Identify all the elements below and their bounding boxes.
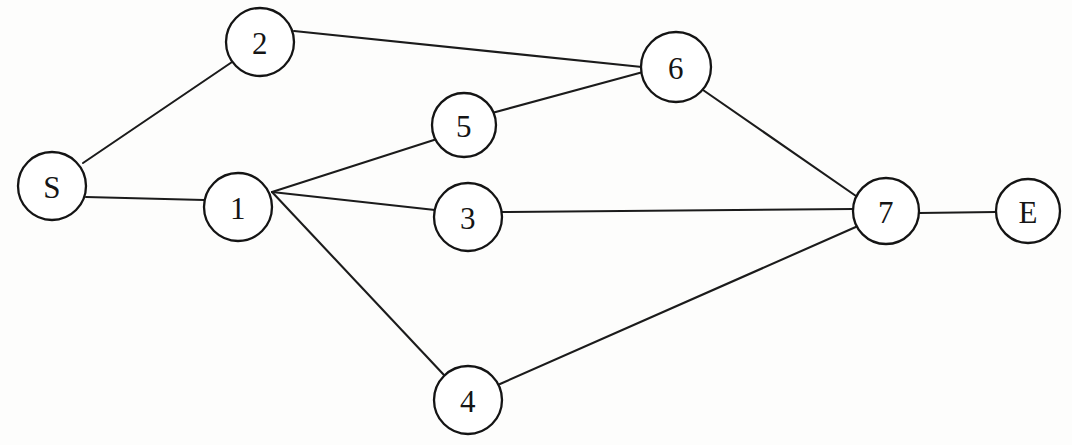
graph-node-e[interactable]: E xyxy=(996,179,1060,243)
graph-diagram-canvas: S2153467E xyxy=(0,0,1072,445)
graph-node-2[interactable]: 2 xyxy=(226,8,294,76)
node-label-e: E xyxy=(1018,195,1037,230)
edge-1-3 xyxy=(272,192,435,210)
graph-node-3[interactable]: 3 xyxy=(434,183,502,251)
graph-node-7[interactable]: 7 xyxy=(853,178,919,244)
node-layer: S2153467E xyxy=(18,8,1060,434)
node-label-s: S xyxy=(43,170,61,205)
graph-node-5[interactable]: 5 xyxy=(432,93,496,157)
edge-3-7 xyxy=(502,209,853,212)
node-label-6: 6 xyxy=(668,51,684,86)
edge-1-5 xyxy=(272,139,437,192)
edge-s-1 xyxy=(86,197,204,200)
edge-4-7 xyxy=(500,226,858,384)
edge-2-6 xyxy=(294,31,642,67)
edge-5-6 xyxy=(492,72,643,113)
node-label-7: 7 xyxy=(878,195,894,230)
graph-node-1[interactable]: 1 xyxy=(204,173,272,241)
node-label-3: 3 xyxy=(460,201,476,236)
edge-1-4 xyxy=(272,192,444,375)
graph-node-6[interactable]: 6 xyxy=(641,32,711,102)
node-label-5: 5 xyxy=(456,109,472,144)
node-label-2: 2 xyxy=(252,26,268,61)
graph-node-4[interactable]: 4 xyxy=(434,366,502,434)
node-label-1: 1 xyxy=(230,191,246,226)
edge-6-7 xyxy=(703,90,856,196)
edge-s-2 xyxy=(83,60,235,163)
node-label-4: 4 xyxy=(460,384,476,419)
edge-7-e xyxy=(919,212,996,213)
graph-node-s[interactable]: S xyxy=(18,152,86,220)
graph-svg: S2153467E xyxy=(0,0,1072,445)
